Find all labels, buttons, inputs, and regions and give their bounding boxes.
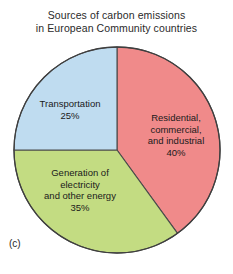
chart-title-line-2: in European Community countries	[0, 22, 233, 35]
pie-chart	[12, 45, 222, 255]
figure-marker: (c)	[9, 238, 21, 249]
chart-title: Sources of carbon emissions in European …	[0, 9, 233, 35]
pie-chart-svg	[12, 45, 222, 255]
figure-panel: Sources of carbon emissions in European …	[0, 0, 233, 274]
pie-slice-transportation[interactable]	[14, 47, 117, 150]
chart-title-line-1: Sources of carbon emissions	[0, 9, 233, 22]
